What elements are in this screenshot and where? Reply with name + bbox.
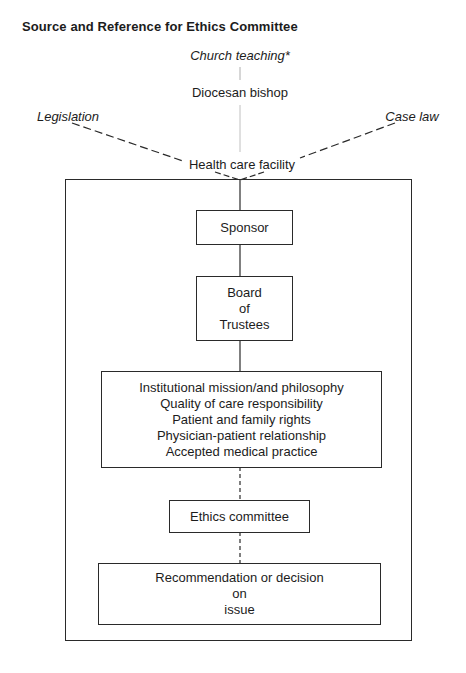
diocesan-bishop-label: Diocesan bishop bbox=[192, 85, 288, 100]
institutional-line-2: Quality of care responsibility bbox=[160, 396, 323, 412]
ethics-committee-box: Ethics committee bbox=[169, 500, 310, 533]
board-text-line-1: Board bbox=[227, 285, 262, 301]
institutional-factors-box: Institutional mission/and philosophy Qua… bbox=[101, 371, 382, 468]
institutional-line-1: Institutional mission/and philosophy bbox=[139, 380, 344, 396]
diagram-title: Source and Reference for Ethics Committe… bbox=[22, 19, 298, 34]
institutional-line-5: Accepted medical practice bbox=[166, 444, 318, 460]
legislation-label: Legislation bbox=[37, 109, 99, 124]
board-text-line-3: Trustees bbox=[219, 317, 269, 333]
institutional-line-3: Patient and family rights bbox=[172, 412, 311, 428]
institutional-line-4: Physician-patient relationship bbox=[157, 428, 326, 444]
recommendation-line-1: Recommendation or decision bbox=[155, 570, 323, 586]
recommendation-box: Recommendation or decision on issue bbox=[98, 563, 381, 625]
caselaw-dashed-line bbox=[300, 123, 395, 158]
church-teaching-label: Church teaching* bbox=[190, 48, 290, 63]
board-of-trustees-box: Board of Trustees bbox=[196, 276, 293, 341]
recommendation-line-3: issue bbox=[224, 602, 254, 618]
legislation-dashed-line bbox=[72, 123, 183, 161]
ethics-committee-text: Ethics committee bbox=[190, 509, 289, 525]
recommendation-line-2: on bbox=[232, 586, 246, 602]
sponsor-text: Sponsor bbox=[220, 220, 268, 236]
board-text-line-2: of bbox=[239, 301, 250, 317]
health-care-facility-label: Health care facility bbox=[189, 157, 295, 172]
sponsor-box: Sponsor bbox=[196, 210, 293, 245]
case-law-label: Case law bbox=[385, 109, 438, 124]
